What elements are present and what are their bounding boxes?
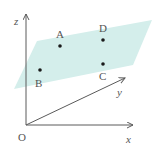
point-c-dot [101,62,105,66]
z-axis-label: z [13,15,19,27]
y-axis-label: y [116,86,122,98]
point-a-label: A [56,28,64,40]
x-axis-label: x [125,133,131,145]
point-d-label: D [99,22,107,34]
point-c-label: C [99,70,106,82]
origin-label: O [18,131,26,143]
point-b-label: B [35,77,42,89]
diagram-canvas: xyz ADCB O [0,0,156,155]
point-d-dot [101,38,105,42]
point-a-dot [58,44,62,48]
point-b-dot [38,68,42,72]
coordinate-diagram: xyz ADCB O [0,0,156,155]
